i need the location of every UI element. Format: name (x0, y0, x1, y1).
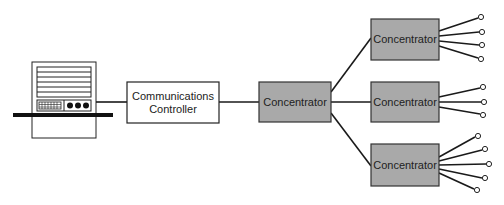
desk-surface (13, 113, 113, 117)
host-terminal-icon (13, 62, 113, 138)
endpoint-icon (479, 29, 484, 34)
endpoint-icon (479, 42, 484, 47)
network-diagram: Communications Controller Concentrator C… (0, 0, 504, 205)
endpoint-icon (480, 84, 485, 89)
concentrator-bottom-box: Concentrator (371, 144, 439, 186)
endpoint-icon (480, 112, 485, 117)
concentrator-center-box: Concentrator (259, 82, 331, 122)
concentrator-center-label: Concentrator (263, 96, 327, 108)
concentrator-middle-label: Concentrator (373, 96, 437, 108)
concentrator-top-label: Concentrator (373, 33, 437, 45)
endpoint-icon (474, 187, 479, 192)
endpoint-icon (482, 175, 487, 180)
communications-controller-box: Communications Controller (127, 82, 219, 123)
concentrator-top-box: Concentrator (371, 19, 439, 60)
controller-label-line2: Controller (149, 103, 197, 115)
controller-label-line1: Communications (132, 90, 214, 102)
endpoint-icon (481, 99, 486, 104)
endpoint-icon (486, 161, 491, 166)
endpoint-icon (475, 133, 480, 138)
endpoint-icon (482, 146, 487, 151)
keypad-icon (39, 102, 61, 109)
concentrator-bottom-label: Concentrator (373, 159, 437, 171)
endpoint-icon (478, 56, 483, 61)
concentrator-middle-box: Concentrator (371, 82, 439, 122)
endpoint-icon (478, 14, 483, 19)
endpoint-terminal-icons (474, 14, 491, 192)
